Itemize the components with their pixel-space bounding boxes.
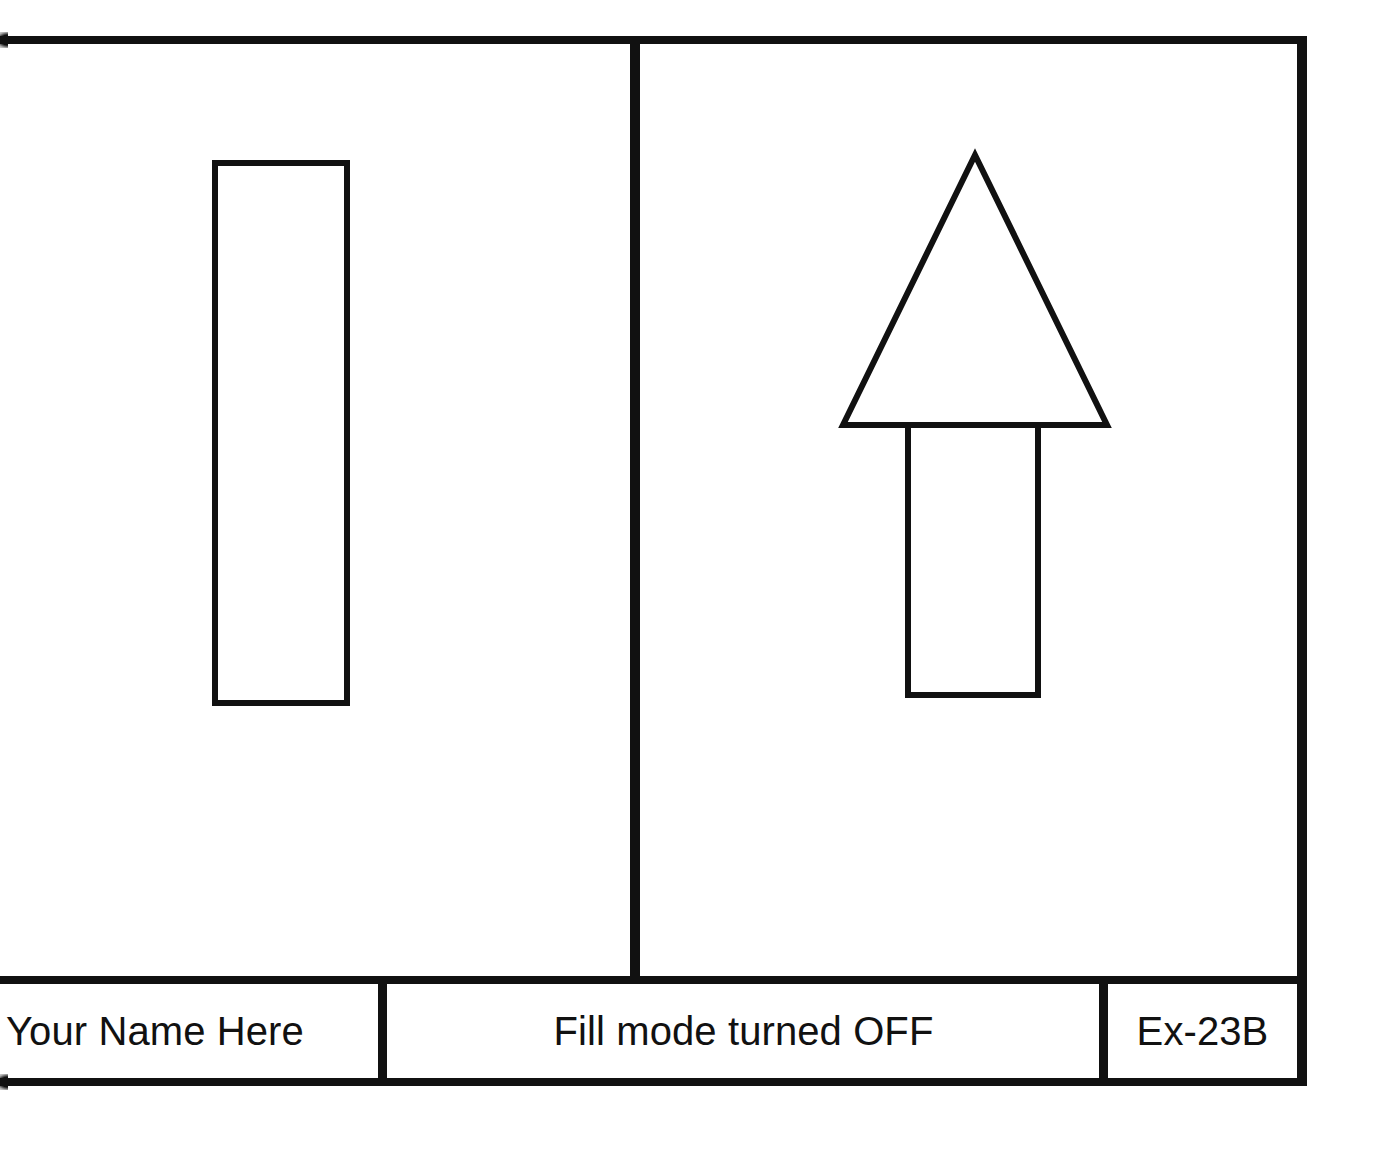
- arrow-shaft-shape[interactable]: [908, 425, 1038, 695]
- drawing-sheet: Your Name Here Fill mode turned OFF Ex-2…: [0, 0, 1377, 1162]
- sheet-border-right: [1297, 36, 1307, 1086]
- arrow-head-triangle-shape[interactable]: [843, 155, 1107, 425]
- title-block-status-field[interactable]: Fill mode turned OFF: [387, 984, 1100, 1078]
- rectangle-shape[interactable]: [215, 163, 347, 703]
- sheet-border-left-edge-cap-top: [0, 32, 8, 48]
- viewport-right[interactable]: [640, 44, 1297, 976]
- left-viewport-geometry: [8, 44, 630, 976]
- title-block: Your Name Here Fill mode turned OFF Ex-2…: [0, 984, 1297, 1078]
- title-block-divider-1: [378, 984, 387, 1078]
- title-block-separator: [0, 976, 1301, 984]
- viewport-left[interactable]: [8, 44, 630, 976]
- title-block-name-field[interactable]: Your Name Here: [0, 984, 378, 1078]
- title-block-divider-2: [1099, 984, 1108, 1078]
- sheet-border-bottom: [0, 1078, 1307, 1086]
- title-block-drawing-number-field[interactable]: Ex-23B: [1108, 984, 1297, 1078]
- viewport-divider: [630, 40, 640, 982]
- sheet-border-top: [0, 36, 1307, 44]
- right-viewport-geometry: [640, 44, 1297, 976]
